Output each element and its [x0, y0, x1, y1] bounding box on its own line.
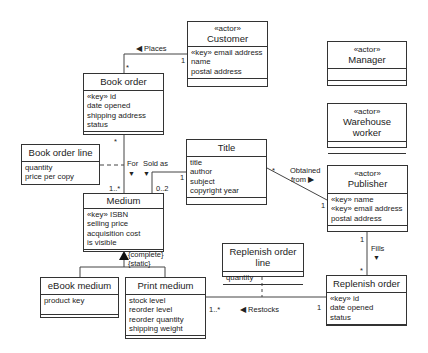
attribute: date opened	[330, 303, 403, 312]
mult-obtained-title: *	[272, 167, 275, 175]
class-customer[interactable]: «actor» Customer «key» email address nam…	[187, 21, 268, 87]
class-header: «actor» Manager	[328, 42, 406, 69]
class-ebook-medium[interactable]: eBook medium product key	[40, 277, 119, 318]
mult-sold-as-title: 1	[180, 174, 184, 182]
class-name: Title	[218, 142, 236, 153]
mult-fills-replenish: *	[360, 267, 363, 275]
class-name: Replenish order line	[229, 246, 296, 268]
class-print-medium[interactable]: Print medium stock level reorder level r…	[125, 277, 206, 339]
stereotype: «actor»	[328, 107, 406, 116]
label-fills: Fills	[371, 245, 384, 253]
attribute: «key» name	[331, 195, 404, 204]
class-book-order[interactable]: Book order «key» id date opened shipping…	[83, 73, 164, 135]
arrow-for-icon: ▼	[128, 170, 135, 178]
class-header: Book order	[84, 74, 163, 91]
attribute: postal address	[331, 214, 404, 223]
attribute: status	[87, 120, 160, 129]
operations	[84, 132, 163, 139]
mult-for-order: *	[114, 138, 117, 146]
attribute: name	[191, 57, 264, 66]
attribute: reorder quantity	[129, 315, 202, 324]
class-replenish-order[interactable]: Replenish order «key» id date opened sta…	[326, 275, 407, 326]
mult-obtained-publisher: 1	[321, 202, 325, 210]
class-header: Replenish order line	[223, 244, 303, 272]
arrow-sold-as-icon: ▼	[143, 170, 150, 178]
class-header: «actor» Customer	[188, 22, 267, 47]
class-book-order-line[interactable]: Book order line quantity price per copy	[21, 144, 100, 185]
attributes: product key	[41, 295, 118, 315]
operations	[188, 79, 267, 86]
attribute: quantity	[25, 163, 96, 172]
class-header: «actor» Warehouse worker	[328, 104, 406, 142]
class-name: Warehouse worker	[343, 116, 391, 138]
stereotype: «actor»	[328, 169, 407, 178]
label-sold-as: Sold as	[143, 160, 168, 168]
attribute: is visible	[87, 238, 160, 247]
attributes: «key» email address name postal address	[188, 47, 267, 79]
class-publisher[interactable]: «actor» Publisher «key» name «key» email…	[327, 165, 408, 232]
attribute: «key» id	[330, 294, 403, 303]
class-header: Book order line	[22, 145, 99, 162]
class-header: Print medium	[126, 278, 205, 295]
class-name: Print medium	[138, 280, 194, 291]
operations	[327, 325, 406, 330]
attributes	[328, 69, 406, 81]
attributes: stock level reorder level reorder quanti…	[126, 295, 205, 336]
class-medium[interactable]: Medium «key» ISBN selling price acquisit…	[83, 193, 164, 252]
attribute: reorder level	[129, 305, 202, 314]
attributes: «key» name «key» email address postal ad…	[328, 194, 407, 226]
class-warehouse-worker[interactable]: «actor» Warehouse worker	[327, 103, 407, 148]
attributes: «key» id date opened shipping address st…	[84, 91, 163, 132]
class-name: Medium	[107, 195, 141, 206]
attribute: shipping weight	[129, 324, 202, 333]
attribute: quantity	[226, 273, 300, 282]
constraint-static: {static}	[128, 260, 151, 268]
class-manager[interactable]: «actor» Manager	[327, 41, 407, 86]
attribute: title	[190, 158, 263, 167]
mult-restocks-replenish: 1	[317, 304, 321, 312]
attribute: shipping address	[87, 111, 160, 120]
label-restocks: ◀ Restocks	[240, 306, 279, 314]
class-name: eBook medium	[48, 280, 111, 291]
class-header: «actor» Publisher	[328, 166, 407, 194]
mult-for-medium: 1..*	[109, 185, 120, 193]
attribute: status	[330, 313, 403, 322]
class-name: Book order line	[29, 147, 93, 158]
attribute: subject	[190, 177, 263, 186]
attribute: postal address	[191, 67, 264, 76]
class-name: Customer	[207, 33, 248, 44]
operations	[328, 81, 406, 88]
attribute: stock level	[129, 296, 202, 305]
stereotype: «actor»	[328, 45, 406, 54]
constraint-complete: {complete}	[128, 251, 163, 259]
attributes: «key» ISBN selling price acquisition cos…	[84, 209, 163, 250]
attribute: acquisition cost	[87, 229, 160, 238]
stereotype: «actor»	[188, 24, 267, 33]
attributes: «key» id date opened status	[327, 293, 406, 325]
attribute: product key	[44, 296, 115, 305]
operations	[328, 154, 406, 161]
attribute: copyright year	[190, 186, 263, 195]
operations	[223, 285, 303, 290]
label-obtained-from-2: from ▶	[291, 176, 314, 184]
class-title[interactable]: Title title author subject copyright yea…	[186, 139, 267, 205]
operations	[22, 185, 99, 190]
attribute: «key» email address	[331, 204, 404, 213]
mult-sold-as-medium: 0..2	[156, 185, 169, 193]
attribute: «key» ISBN	[87, 210, 160, 219]
arrow-fills-icon: ▼	[373, 254, 380, 262]
mult-fills-publisher: 1	[360, 236, 364, 244]
operations	[126, 336, 205, 343]
operations	[187, 198, 266, 205]
attribute: «key» email address	[191, 48, 264, 57]
attributes: title author subject copyright year	[187, 157, 266, 198]
class-header: Medium	[84, 194, 163, 209]
class-replenish-order-line[interactable]: Replenish order line quantity	[222, 243, 304, 277]
attribute: date opened	[87, 101, 160, 110]
mult-places-customer: 1	[181, 57, 185, 65]
operations	[328, 226, 407, 233]
class-header: Title	[187, 140, 266, 157]
attributes: quantity price per copy	[22, 162, 99, 185]
attributes	[328, 142, 406, 154]
mult-restocks-print: 1..*	[209, 306, 220, 314]
